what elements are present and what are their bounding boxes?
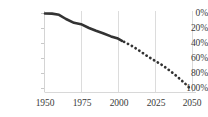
y-tick-marks	[41, 14, 44, 89]
gridlines-vertical	[45, 11, 193, 92]
line-chart: 0% 20% 40% 60% 80% 100% 1950 1975 2000 2…	[0, 0, 208, 117]
plot-area	[0, 0, 208, 117]
series-projection-line	[124, 42, 190, 89]
series-historical-line	[45, 14, 122, 41]
